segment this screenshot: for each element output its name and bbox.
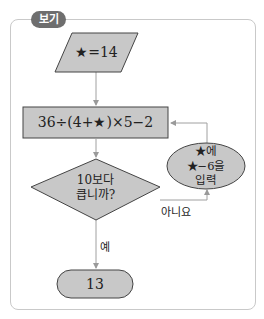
output-label: 13 xyxy=(57,276,133,292)
arrow-no-to-update xyxy=(160,190,207,200)
process-label: 36÷(4+★)×5−2 xyxy=(23,114,168,130)
no-label: 아니요 xyxy=(161,203,191,219)
decision-line-2: 큽니까? xyxy=(31,188,160,203)
update-line-3: 입력 xyxy=(167,173,245,188)
update-line-1: ★에 xyxy=(167,144,245,159)
yes-label: 예 xyxy=(100,238,110,254)
arrow-update-to-process xyxy=(171,123,207,143)
update-line-2: ★−6을 xyxy=(167,159,245,174)
decision-label: 10보다 큽니까? xyxy=(31,173,160,203)
update-label: ★에 ★−6을 입력 xyxy=(167,144,245,188)
decision-line-1: 10보다 xyxy=(31,173,160,188)
input-label: ★=14 xyxy=(55,44,138,60)
